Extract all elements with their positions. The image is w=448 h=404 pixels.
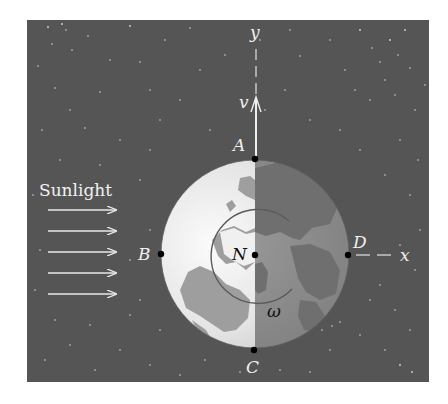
point-d-dot	[345, 252, 351, 258]
point-a-dot	[252, 156, 258, 162]
y-axis-label: y	[249, 22, 260, 42]
point-n-dot	[252, 252, 258, 258]
point-c-dot	[251, 347, 257, 353]
point-c-label: C	[246, 357, 259, 377]
sunlight-label: Sunlight	[39, 180, 112, 200]
point-a-label: A	[231, 135, 245, 155]
velocity-label: v	[239, 92, 249, 112]
point-n-label: N	[231, 244, 248, 264]
point-d-label: D	[352, 232, 367, 252]
x-axis-label: x	[400, 245, 410, 265]
point-b-dot	[158, 251, 164, 257]
point-b-label: B	[137, 244, 151, 264]
earth-rotation-diagram: Sunlight y x v A B C D N ω	[0, 0, 448, 404]
omega-label: ω	[267, 301, 281, 321]
